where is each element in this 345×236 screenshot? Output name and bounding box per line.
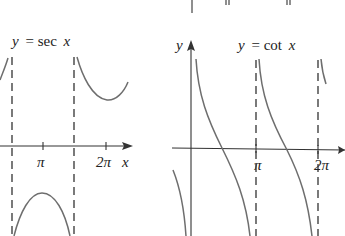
cot-branch-right-upper [321, 59, 326, 84]
sec-branch-left [0, 58, 8, 80]
cot-tick-label-pi: π [254, 157, 262, 173]
cot-y-axis-label: y [174, 37, 183, 53]
sec-branch-middle-lower [14, 193, 70, 236]
sec-title: y = sec x [10, 33, 71, 49]
cot-branch-pi-2pi [259, 59, 312, 236]
cot-branch-left-lower [173, 170, 186, 236]
cot-x-axis [172, 148, 345, 150]
cot-x-axis-arrow-icon [338, 146, 345, 154]
sec-graph: y = sec x π 2π x [0, 33, 133, 236]
sec-tick-label-pi: π [37, 154, 45, 170]
cot-graph: y y = cot x π 2π [172, 37, 345, 236]
sec-tick-label-2pi: 2π [96, 154, 112, 170]
cot-title: y = cot x [236, 37, 296, 53]
sec-branch-right-upper [77, 57, 128, 100]
cot-branch-0-pi [196, 59, 250, 236]
sec-x-axis-label: x [121, 154, 129, 170]
cot-tick-label-2pi: 2π [314, 157, 330, 173]
trig-graphs-figure: y = sec x π 2π x y y = cot x π [0, 0, 345, 236]
top-remnant-marks [192, 0, 290, 13]
